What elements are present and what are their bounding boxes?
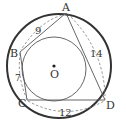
- length-cd: 12: [59, 107, 72, 118]
- side-ab: [20, 13, 66, 52]
- label-a: A: [61, 1, 71, 14]
- geometry-diagram: A B C D O 9 7 14 12: [0, 0, 126, 129]
- length-bc: 7: [15, 73, 21, 83]
- label-c: C: [18, 97, 26, 110]
- length-ab: 9: [35, 25, 41, 36]
- label-b: B: [10, 47, 18, 60]
- length-ad: 14: [90, 48, 103, 59]
- label-o: O: [50, 68, 59, 81]
- label-d: D: [106, 99, 115, 112]
